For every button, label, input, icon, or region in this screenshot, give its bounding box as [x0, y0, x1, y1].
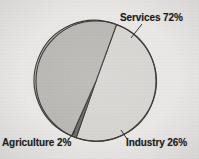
pie-chart-canvas — [0, 0, 199, 159]
pie-label-industry: Industry 26% — [126, 137, 187, 148]
pie-label-services: Services 72% — [120, 12, 183, 23]
pie-label-agriculture: Agriculture 2% — [2, 137, 71, 148]
pie-chart-figure: Services 72% Agriculture 2% Industry 26% — [0, 0, 199, 159]
